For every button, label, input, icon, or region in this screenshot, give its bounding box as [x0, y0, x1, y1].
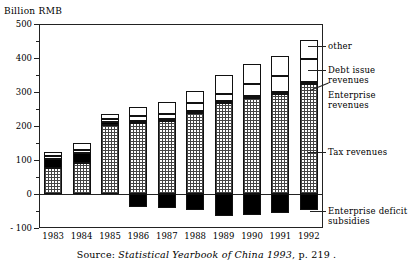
annotation-enterprise-deficit-subsidies: Enterprise deficit subsidies	[328, 206, 407, 226]
bar-segment-ent	[271, 92, 289, 94]
bar-segment-tax	[44, 168, 62, 194]
bar-group[interactable]	[215, 24, 233, 228]
bar-segment-ent	[243, 96, 261, 98]
bar-segment-debt	[44, 156, 62, 159]
bar-group[interactable]	[44, 24, 62, 228]
annotation-enterprise-revenues: Enterprise revenues	[328, 90, 376, 110]
bar-segment-tax	[243, 98, 261, 194]
y-tick-label: 300	[16, 87, 32, 97]
bar-segment-debt	[243, 84, 261, 96]
bar-segment-tax	[129, 123, 147, 194]
bar-segment-deficit	[271, 194, 289, 213]
bar-segment-deficit	[300, 194, 318, 210]
source-prefix: Source:	[77, 249, 119, 260]
bar-segment-tax	[271, 94, 289, 194]
bar-segment-debt	[215, 94, 233, 100]
bar-segment-other	[101, 114, 119, 119]
bar-group[interactable]	[186, 24, 204, 228]
leader-debt	[308, 70, 326, 71]
y-tick	[34, 228, 39, 229]
y-axis: 5004003002001000- 100	[0, 24, 39, 228]
bar-group[interactable]	[243, 24, 261, 228]
annotation-debt-issue-revenues: Debt issue revenues	[328, 65, 413, 85]
bar-group[interactable]	[271, 24, 289, 228]
leader-other	[308, 46, 326, 47]
bar-segment-other	[215, 75, 233, 95]
bar-segment-tax	[186, 113, 204, 194]
bar-segment-debt	[271, 76, 289, 93]
bar-group[interactable]	[300, 24, 318, 228]
y-tick-label: 200	[16, 121, 32, 131]
y-tick-label: - 100	[10, 223, 32, 233]
annotation-other: other	[328, 41, 352, 51]
bar-segment-deficit	[243, 194, 261, 215]
bar-group[interactable]	[129, 24, 147, 228]
y-axis-title: Billion RMB	[4, 6, 62, 16]
bar-segment-tax	[73, 163, 91, 194]
bar-segment-ent	[300, 82, 318, 84]
bar-segment-other	[73, 143, 91, 150]
bar-segment-debt	[158, 114, 176, 119]
bar-group[interactable]	[158, 24, 176, 228]
bar-segment-other	[300, 40, 318, 60]
bar-group[interactable]	[73, 24, 91, 228]
bar-segment-other	[186, 91, 204, 103]
leader-tax	[308, 152, 326, 153]
annotation-tax-revenues: Tax revenues	[328, 147, 387, 157]
bar-segment-debt	[129, 116, 147, 121]
chart-canvas: Billion RMB 5004003002001000- 100 198319…	[0, 0, 413, 266]
bar-segment-ent	[158, 119, 176, 121]
bar-segment-debt	[101, 119, 119, 122]
bar-segment-deficit	[215, 194, 233, 216]
plot-area	[39, 24, 323, 228]
bar-segment-deficit	[186, 194, 204, 210]
bar-segment-ent	[73, 153, 91, 163]
bar-segment-ent	[215, 101, 233, 103]
y-tick-label: 0	[27, 189, 32, 199]
bar-group[interactable]	[101, 24, 119, 228]
y-tick-label: 500	[16, 19, 32, 29]
source-suffix: , p. 219 .	[292, 249, 336, 260]
bar-segment-other	[271, 56, 289, 76]
bar-segment-tax	[101, 125, 119, 194]
y-tick-label: 400	[16, 53, 32, 63]
y-tick-label: 100	[16, 155, 32, 165]
x-axis: 1983198419851986198719881989199019911992	[39, 231, 323, 245]
bar-segment-ent	[186, 111, 204, 113]
bar-segment-deficit	[158, 194, 176, 208]
bar-segment-ent	[101, 122, 119, 125]
bar-segment-other	[243, 64, 261, 84]
bar-segment-ent	[129, 121, 147, 123]
bar-segment-tax	[300, 84, 318, 195]
bar-segment-ent	[44, 159, 62, 168]
bar-segment-debt	[186, 103, 204, 111]
source-caption: Source: Statistical Yearbook of China 19…	[0, 249, 413, 260]
bar-segment-debt	[73, 150, 91, 152]
x-tick-label: 1992	[292, 231, 326, 241]
leader-deficit	[310, 211, 326, 212]
bar-segment-tax	[215, 103, 233, 194]
bar-segment-tax	[158, 121, 176, 194]
bar-segment-other	[44, 152, 62, 156]
bar-segment-other	[158, 102, 176, 115]
bar-segment-other	[129, 107, 147, 116]
bar-segment-deficit	[129, 194, 147, 207]
source-title: Statistical Yearbook of China 1993	[118, 249, 292, 260]
